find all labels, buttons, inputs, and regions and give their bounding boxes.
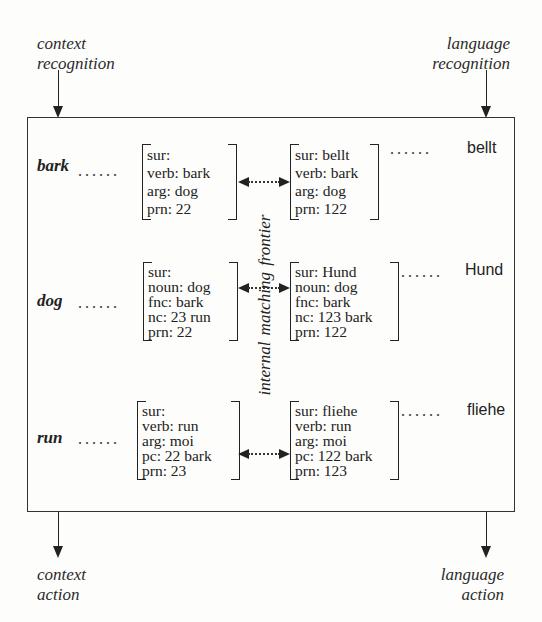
dotted-line [248, 287, 280, 289]
concept-bark: bark [37, 156, 69, 176]
avm-attribute: sur: [142, 403, 236, 418]
avm-attribute: sur: [147, 146, 233, 164]
avm-attribute: verb: bark [147, 164, 233, 182]
label-line: context [37, 34, 115, 54]
label-line: action [441, 585, 504, 605]
context-avm-dog: sur: noun: dog fnc: bark nc: 23 run prn:… [143, 262, 238, 341]
avm-attribute: prn: 22 [147, 200, 233, 218]
context-avm-bark: sur: verb: bark arg: dog prn: 22 [142, 144, 237, 220]
label-line: language [441, 565, 504, 585]
avm-attribute: nc: 123 bark [295, 309, 395, 324]
avm-attribute: sur: Hund [295, 264, 395, 279]
avm-attribute: fnc: bark [295, 294, 395, 309]
arrow-down-icon [481, 546, 491, 558]
language-avm-bark: sur: bellt verb: bark arg: dog prn: 122 [290, 144, 379, 220]
avm-attribute: sur: [148, 264, 234, 279]
avm-attribute: verb: run [295, 418, 395, 433]
language-recognition-arrow-shaft [486, 70, 487, 108]
avm-attribute: fnc: bark [148, 294, 234, 309]
avm-attribute: prn: 122 [295, 324, 395, 339]
context-action-label: context action [37, 565, 86, 605]
context-action-arrow-shaft [58, 512, 59, 548]
language-avm-dog: sur: Hund noun: dog fnc: bark nc: 123 ba… [290, 262, 399, 341]
language-action-arrow-shaft [486, 512, 487, 548]
avm-attribute: noun: dog [148, 279, 234, 294]
avm-attribute: pc: 22 bark [142, 448, 236, 463]
arrowhead-right-icon [279, 177, 290, 187]
label-line: recognition [432, 54, 510, 74]
dotted-line [248, 453, 280, 455]
language-avm-run: sur: fliehe verb: run arg: moi pc: 122 b… [290, 401, 399, 480]
dotted-line [248, 181, 280, 183]
avm-attribute: prn: 123 [295, 463, 395, 478]
avm-attribute: verb: bark [295, 164, 375, 182]
dotted-connector: ...... [78, 294, 120, 312]
dotted-connector: ...... [390, 140, 432, 158]
avm-attribute: sur: bellt [295, 146, 375, 164]
context-recognition-label: context recognition [37, 34, 115, 74]
arrowhead-right-icon [279, 283, 290, 293]
avm-attribute: prn: 22 [148, 324, 234, 339]
label-line: action [37, 585, 86, 605]
avm-attribute: prn: 122 [295, 200, 375, 218]
language-recognition-label: language recognition [432, 34, 510, 74]
avm-attribute: arg: dog [147, 182, 233, 200]
match-arrow-dog [238, 283, 290, 293]
arrow-down-icon [53, 546, 63, 558]
avm-attribute: nc: 23 run [148, 309, 234, 324]
avm-attribute: verb: run [142, 418, 236, 433]
dotted-connector: ...... [78, 430, 120, 448]
match-arrow-bark [238, 177, 290, 187]
surface-fliehe: fliehe [467, 401, 505, 419]
avm-attribute: prn: 23 [142, 463, 236, 478]
label-line: recognition [37, 54, 115, 74]
dotted-connector: ...... [78, 162, 120, 180]
arrowhead-right-icon [279, 449, 290, 459]
label-line: language [432, 34, 510, 54]
avm-attribute: noun: dog [295, 279, 395, 294]
concept-run: run [37, 428, 63, 448]
avm-attribute: pc: 122 bark [295, 448, 395, 463]
dotted-connector: ...... [401, 402, 443, 420]
concept-dog: dog [37, 291, 63, 311]
avm-attribute: sur: fliehe [295, 403, 395, 418]
avm-attribute: arg: moi [142, 433, 236, 448]
surface-bellt: bellt [467, 139, 496, 157]
context-recognition-arrow-shaft [58, 70, 59, 108]
match-arrow-run [238, 449, 290, 459]
language-action-label: language action [441, 565, 504, 605]
avm-attribute: arg: dog [295, 182, 375, 200]
avm-attribute: arg: moi [295, 433, 395, 448]
label-line: context [37, 565, 86, 585]
surface-hund: Hund [465, 261, 503, 279]
internal-matching-frontier-label: internal matching frontier [255, 215, 275, 396]
dotted-connector: ...... [401, 263, 443, 281]
context-avm-run: sur: verb: run arg: moi pc: 22 bark prn:… [137, 401, 240, 480]
